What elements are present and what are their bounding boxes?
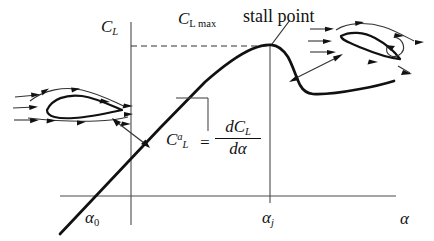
streamline-arrow (71, 88, 80, 93)
freestream-arrowhead (29, 105, 38, 110)
stall-point-label: stall point (243, 7, 315, 25)
connector-right-line (292, 56, 340, 80)
freestream-arrowhead (327, 50, 336, 55)
airfoil-body-left (47, 96, 122, 119)
fraction-denominator: dα (213, 140, 263, 158)
connector-arrowhead (333, 54, 343, 62)
slope-triangle (176, 98, 208, 131)
equals-sign: = (199, 134, 210, 151)
lift-slope-symbol: CaL (166, 131, 188, 151)
x-axis-label: α (400, 210, 409, 227)
fraction-numerator: dCL (213, 118, 263, 137)
alpha-zero-label: α0 (85, 209, 99, 229)
streamline-arrow (47, 119, 57, 124)
stalled-airfoil (308, 21, 424, 75)
streamline-arrow (415, 40, 424, 45)
connector-right (289, 54, 343, 82)
y-axis-label: CL (101, 18, 118, 38)
freestream-arrowhead (325, 27, 334, 32)
wake-arrowhead (368, 60, 379, 65)
trailing-edge-arrowhead (124, 112, 133, 117)
cl-max-label: CL max (178, 10, 216, 30)
freestream-arrowhead (323, 39, 332, 44)
slope-fraction: dCL dα (213, 118, 263, 158)
alpha-j-label: αj (262, 209, 274, 229)
